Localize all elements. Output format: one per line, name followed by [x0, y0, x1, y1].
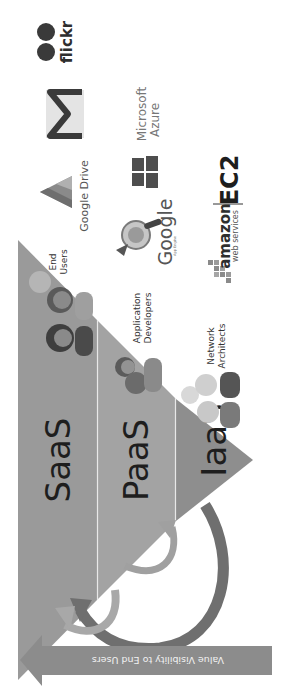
flickr-dots-icon	[37, 23, 55, 41]
microsoft-azure-logo: Microsoft Azure	[132, 86, 162, 188]
paas-label: PaaS	[116, 419, 156, 501]
azure-text-line2: Azure	[148, 103, 162, 137]
google-drive-text: Google Drive	[78, 160, 91, 232]
cloud-service-model-diagram: SaaS PaaS IaaS Value Visibility to End U…	[0, 0, 284, 692]
application-developers-label: Application Developers	[132, 292, 153, 343]
svg-text:Network: Network	[206, 326, 216, 364]
windows-flag-icon	[132, 156, 158, 188]
svg-text:Developers: Developers	[143, 292, 153, 343]
flickr-text: flickr	[58, 20, 76, 63]
value-arrow-label: Value Visibility to End Users	[92, 655, 224, 666]
azure-text-line1: Microsoft	[135, 86, 149, 141]
ec2-text: EC2	[216, 155, 244, 206]
flickr-dots-icon	[37, 43, 55, 61]
saas-label: SaaS	[38, 418, 78, 503]
network-architects-label: Network Architects	[206, 323, 227, 368]
web-services-text: web services	[231, 210, 240, 262]
value-visibility-arrow: Value Visibility to End Users	[20, 635, 272, 686]
flickr-logo: flickr	[37, 20, 76, 63]
amazon-ec2-logo: amazon web services EC2	[208, 155, 244, 283]
svg-text:Users: Users	[59, 249, 69, 275]
gmail-logo	[46, 90, 84, 138]
app-engine-subtext: App Engine	[173, 236, 177, 256]
google-drive-logo: Google Drive	[40, 160, 91, 232]
svg-text:Application: Application	[132, 293, 142, 343]
google-app-engine-logo: Google App Engine	[116, 198, 177, 265]
end-users-label: End Users	[48, 249, 69, 275]
svg-text:Architects: Architects	[217, 323, 227, 368]
svg-text:End: End	[48, 253, 58, 270]
